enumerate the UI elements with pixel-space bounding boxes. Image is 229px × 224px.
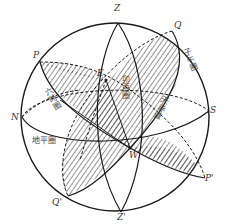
label-p-prime: P' [205,174,214,183]
label-zenith: Z [114,4,120,13]
label-e: E [97,69,104,78]
label-q-prime: Q' [52,198,62,207]
label-s: S [210,106,216,115]
label-n: N [11,113,19,122]
label-p: P [33,51,39,60]
label-horizon: 地平圈 [32,137,56,145]
label-nadir: Z' [117,213,126,222]
label-w: W [129,151,138,160]
celestial-sphere-diagram [0,0,229,224]
label-prime-vertical: 卯酉圈 [120,75,128,99]
label-q: Q [174,21,181,30]
point-e-marker [105,79,108,82]
